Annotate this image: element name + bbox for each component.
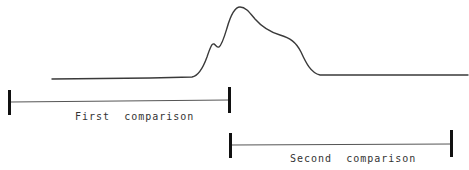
diagram-canvas: First comparison Second comparison [0, 0, 469, 170]
diagram-svg [0, 0, 469, 170]
first-comparison-right-tick [228, 87, 231, 113]
second-comparison-line [231, 144, 451, 145]
second-comparison-right-tick [450, 130, 453, 157]
second-comparison-left-tick [229, 133, 232, 158]
second-comparison-label: Second comparison [290, 153, 416, 164]
first-comparison-line [10, 100, 229, 102]
first-comparison-label: First comparison [75, 111, 194, 122]
signal-curve [52, 7, 468, 79]
first-comparison-left-tick [8, 90, 11, 115]
